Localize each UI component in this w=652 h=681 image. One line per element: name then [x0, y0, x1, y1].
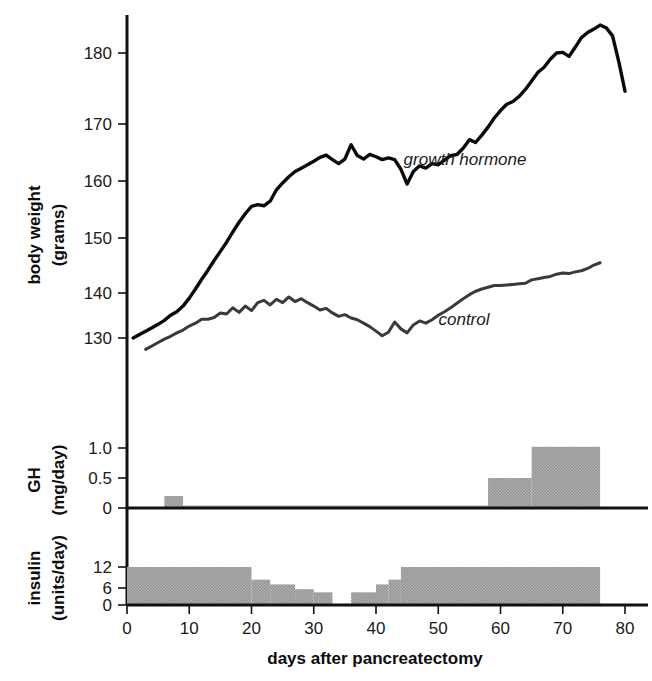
- x-axis-label-70: 70: [553, 619, 572, 638]
- panel-insulin-dose: 0 6 12 insulin (units/day): [25, 535, 648, 621]
- insulin-dose-bar: [376, 584, 388, 605]
- insulin-ytick-6: 6: [103, 579, 112, 598]
- gh-ytick-05: 0.5: [88, 469, 112, 488]
- weight-ytick-170: 170: [84, 115, 112, 134]
- gh-ytick-0: 0: [103, 499, 112, 518]
- x-axis-label-60: 60: [491, 619, 510, 638]
- chart-svg: 130 140 150 160 170 180 body weight (gra…: [0, 0, 652, 681]
- insulin-ytick-12: 12: [93, 558, 112, 577]
- gh-bar-group: [164, 447, 600, 508]
- weight-ytick-140: 140: [84, 284, 112, 303]
- insulin-dose-bar: [351, 592, 376, 605]
- insulin-dose-bar: [127, 567, 252, 605]
- x-axis-label-50: 50: [429, 619, 448, 638]
- weight-ytick-180: 180: [84, 44, 112, 63]
- x-axis-title: days after pancreatectomy: [267, 649, 483, 668]
- gh-axis-title-line1: GH: [25, 467, 44, 493]
- weight-ytick-130: 130: [84, 329, 112, 348]
- series-control: [146, 263, 600, 350]
- panel-gh-dose: 0 0.5 1.0 GH (mg/day): [25, 439, 648, 518]
- weight-axis-title-line2: (grams): [49, 204, 68, 266]
- gh-dose-bar: [164, 496, 183, 508]
- gh-axis-title-line2: (mg/day): [49, 445, 68, 516]
- insulin-dose-bar: [270, 584, 295, 605]
- x-axis-label-group: 01020304050607080: [122, 619, 634, 638]
- x-axis-label-40: 40: [367, 619, 386, 638]
- insulin-dose-bar: [314, 592, 333, 605]
- insulin-axis-title-line1: insulin: [25, 551, 44, 606]
- insulin-dose-bar: [401, 567, 600, 605]
- insulin-ytick-0: 0: [103, 596, 112, 615]
- panel-body-weight: 130 140 150 160 170 180 body weight (gra…: [25, 25, 625, 349]
- insulin-dose-bar: [252, 580, 271, 605]
- series-growth-hormone: [133, 25, 625, 338]
- gh-dose-bar: [532, 447, 600, 508]
- weight-axis-title-line1: body weight: [25, 185, 44, 285]
- weight-ytick-150: 150: [84, 229, 112, 248]
- x-axis-label-0: 0: [122, 619, 131, 638]
- gh-ytick-10: 1.0: [88, 439, 112, 458]
- insulin-bar-group: [127, 567, 600, 605]
- x-axis-label-80: 80: [616, 619, 635, 638]
- weight-ytick-160: 160: [84, 172, 112, 191]
- insulin-dose-bar: [388, 580, 400, 605]
- figure-container: 130 140 150 160 170 180 body weight (gra…: [0, 0, 652, 681]
- insulin-axis-title-line2: (units/day): [49, 535, 68, 621]
- gh-dose-bar: [488, 478, 532, 508]
- x-axis-label-20: 20: [242, 619, 261, 638]
- label-growth-hormone: growth hormone: [404, 150, 527, 169]
- label-control: control: [438, 310, 490, 329]
- x-axis-label-10: 10: [180, 619, 199, 638]
- x-axis-label-30: 30: [304, 619, 323, 638]
- insulin-dose-bar: [295, 589, 314, 605]
